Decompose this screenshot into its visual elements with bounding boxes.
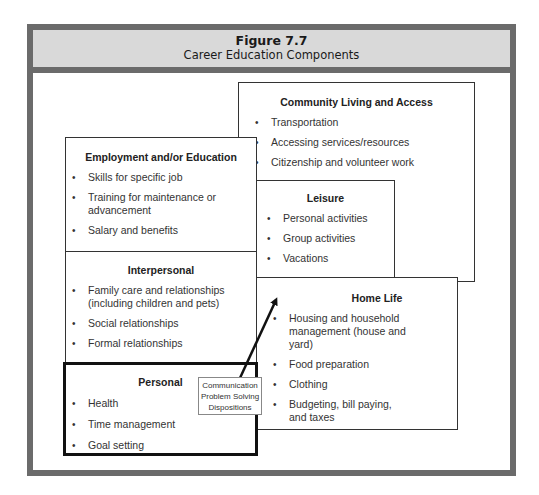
home-life-list: Housing and household management (house … xyxy=(257,312,457,424)
leisure-title: Leisure xyxy=(257,191,394,205)
employment-education-title: Employment and/or Education xyxy=(66,150,256,164)
list-item: Vacations xyxy=(263,252,394,265)
figure-header: Figure 7.7 Career Education Components xyxy=(33,30,510,73)
list-item: Goal setting xyxy=(68,439,255,452)
callout-line: Communication xyxy=(199,380,261,391)
community-living-list: Transportation Accessing services/resour… xyxy=(239,116,474,169)
list-item: Transportation xyxy=(251,116,474,129)
leisure-box: Leisure Personal activities Group activi… xyxy=(256,180,395,278)
list-item: Salary and benefits xyxy=(68,224,256,237)
employment-education-box: Employment and/or Education Skills for s… xyxy=(65,137,257,253)
interpersonal-title: Interpersonal xyxy=(66,263,256,277)
home-life-box: Home Life Housing and household manageme… xyxy=(256,277,458,430)
list-item: Group activities xyxy=(263,232,394,245)
callout-line: Problem Solving xyxy=(199,391,261,402)
figure-number: Figure 7.7 xyxy=(33,33,510,48)
callout-line: Dispositions xyxy=(199,402,261,413)
employment-education-list: Skills for specific job Training for mai… xyxy=(66,171,256,237)
leisure-list: Personal activities Group activities Vac… xyxy=(257,212,394,265)
skills-callout: Communication Problem Solving Dispositio… xyxy=(198,377,262,415)
community-living-title: Community Living and Access xyxy=(239,95,474,109)
list-item: Food preparation xyxy=(269,358,457,371)
home-life-title: Home Life xyxy=(257,291,457,305)
list-item: Formal relationships xyxy=(68,337,256,350)
list-item: Family care and relationships (including… xyxy=(68,284,243,310)
list-item: Citizenship and volunteer work xyxy=(251,156,474,169)
list-item: Budgeting, bill paying, and taxes xyxy=(269,398,409,424)
list-item: Personal activities xyxy=(263,212,394,225)
list-item: Accessing services/resources xyxy=(251,136,474,149)
interpersonal-box: Interpersonal Family care and relationsh… xyxy=(65,251,257,364)
list-item: Social relationships xyxy=(68,317,256,330)
figure-title: Career Education Components xyxy=(33,48,510,63)
list-item: Training for maintenance or advancement xyxy=(68,191,218,217)
interpersonal-list: Family care and relationships (including… xyxy=(66,284,256,350)
list-item: Skills for specific job xyxy=(68,171,256,184)
list-item: Housing and household management (house … xyxy=(269,312,429,351)
list-item: Time management xyxy=(68,418,255,431)
list-item: Clothing xyxy=(269,378,457,391)
